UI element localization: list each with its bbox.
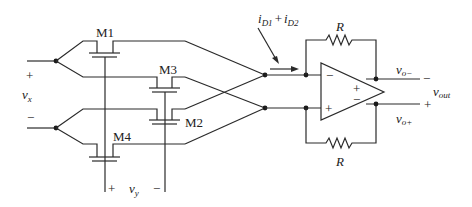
circuit-diagram: M1 M3 M2 M4 xyxy=(0,0,472,207)
transistor-m4: M4 xyxy=(89,129,185,161)
current-label: iD1+iD2 xyxy=(258,11,299,28)
m3-label: M3 xyxy=(159,62,177,77)
vo-plus-node xyxy=(374,102,379,107)
outputs xyxy=(366,77,420,107)
opamp-inverting-sign: − xyxy=(326,68,333,83)
vx-plus-input xyxy=(27,41,157,88)
vy-plus-sign: + xyxy=(108,181,115,196)
resistor-bottom-label: R xyxy=(335,154,344,169)
opamp-out-minus-sign: − xyxy=(353,92,360,107)
vo-minus-sign: − xyxy=(423,71,430,86)
vx-minus-sign: − xyxy=(27,110,34,125)
vout-label: vout xyxy=(433,84,451,100)
vo-minus-node xyxy=(374,77,379,82)
vy-minus-sign: − xyxy=(153,181,160,196)
opamp-noninverting-sign: + xyxy=(325,101,332,116)
vo-plus-label: vo+ xyxy=(396,111,412,127)
m1-label: M1 xyxy=(96,25,114,40)
vx-plus-sign: + xyxy=(26,68,33,83)
vx-minus-input xyxy=(27,109,157,157)
vo-minus-label: vo− xyxy=(396,62,412,78)
vx-label: vx xyxy=(22,87,32,104)
m4-label: M4 xyxy=(113,129,132,144)
opamp: − + + − xyxy=(321,63,384,120)
opamp-input-wires xyxy=(265,73,321,111)
transistor-m1: M1 xyxy=(89,25,185,57)
resistor-top: R xyxy=(306,19,376,79)
vo-plus-sign: + xyxy=(424,97,431,112)
current-arrow xyxy=(258,28,299,72)
m2-label: M2 xyxy=(185,115,203,130)
vy-label: vy xyxy=(129,181,139,198)
resistor-bottom: R xyxy=(306,104,376,169)
resistor-top-label: R xyxy=(335,19,344,34)
